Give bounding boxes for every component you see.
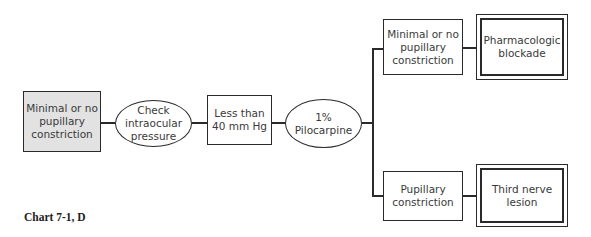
node-label: Pupillary constriction (392, 183, 454, 209)
edge-branch-to-minimal-constriction (372, 48, 383, 50)
edge-check-iop-to-iop-result (192, 122, 207, 124)
edge-iop-result-to-pilocarpine (272, 122, 285, 124)
node-pharmacologic-blockade: Pharmacologic blockade (476, 14, 568, 80)
node-label: 1% Pilocarpine (295, 111, 353, 137)
edge-minimal-to-pharmacologic (463, 47, 476, 49)
edge-start-to-check-iop (101, 122, 115, 124)
edge-branch-to-pupillary-constriction (372, 195, 383, 197)
node-less-than-40mmhg: Less than 40 mm Hg (207, 95, 272, 145)
node-label: Minimal or no pupillary constriction (387, 28, 459, 67)
node-label: Less than 40 mm Hg (212, 107, 267, 133)
node-pilocarpine: 1% Pilocarpine (285, 99, 362, 148)
node-label: Third nerve lesion (492, 183, 552, 209)
node-label: Minimal or no pupillary constriction (26, 102, 98, 141)
edge-pupillary-to-third-nerve (463, 195, 476, 197)
node-label: Pharmacologic blockade (483, 34, 560, 60)
node-pupillary-constriction: Pupillary constriction (383, 171, 463, 221)
branch-vertical-line (372, 48, 374, 196)
node-start-minimal-constriction: Minimal or no pupillary constriction (23, 91, 101, 152)
node-check-intraocular-pressure: Check intraocular pressure (115, 100, 192, 147)
node-third-nerve-lesion: Third nerve lesion (476, 164, 568, 227)
node-label: Check intraocular pressure (125, 104, 182, 143)
chart-caption: Chart 7-1, D (24, 211, 86, 223)
node-minimal-constriction-result: Minimal or no pupillary constriction (383, 19, 463, 75)
